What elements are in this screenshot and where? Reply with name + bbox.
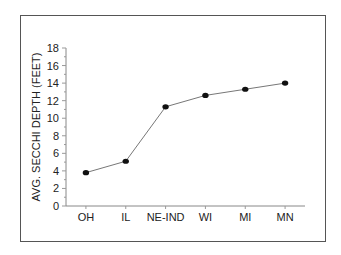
y-tick-label: 12 (47, 95, 59, 107)
y-axis-label: AVG. SECCHI DEPTH (FEET) (30, 53, 42, 202)
data-point-marker (162, 104, 168, 109)
x-tick-label: IL (121, 211, 130, 223)
data-point-marker (242, 87, 248, 92)
y-tick-label: 4 (53, 165, 59, 177)
line-chart: 024681012141618OHILNE-INDWIMIMNAVG. SECC… (0, 0, 341, 255)
x-tick-label: NE-IND (147, 211, 185, 223)
y-tick-label: 18 (47, 42, 59, 54)
y-tick-label: 0 (53, 200, 59, 212)
x-tick-label: MI (239, 211, 251, 223)
y-tick-label: 10 (47, 112, 59, 124)
x-tick-label: MN (277, 211, 294, 223)
data-point-marker (83, 170, 89, 175)
y-tick-label: 14 (47, 77, 59, 89)
data-point-marker (123, 159, 129, 164)
data-point-marker (282, 81, 288, 86)
series-line (86, 83, 285, 173)
x-tick-label: WI (199, 211, 212, 223)
y-tick-label: 16 (47, 60, 59, 72)
x-tick-label: OH (78, 211, 95, 223)
y-tick-label: 8 (53, 130, 59, 142)
data-point-marker (202, 93, 208, 98)
y-tick-label: 6 (53, 147, 59, 159)
y-tick-label: 2 (53, 182, 59, 194)
